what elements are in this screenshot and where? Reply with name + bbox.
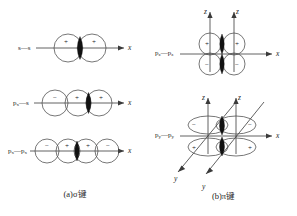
lobe-sign-1: − bbox=[45, 143, 49, 150]
lobe-sign-top-right: − bbox=[248, 122, 252, 129]
x-axis-label: x bbox=[276, 132, 279, 140]
overlap-lens bbox=[75, 141, 80, 161]
row-py-py-label-second-sub: y bbox=[172, 134, 175, 139]
z-axis-left-label: z bbox=[202, 94, 205, 102]
row-s-s-label-second: s bbox=[28, 44, 31, 52]
z-axis-left-label: z bbox=[204, 8, 207, 16]
row-py-py-label-dash: — bbox=[161, 131, 168, 139]
lobe-sign-1: − bbox=[53, 95, 57, 102]
row-pz-pz-label-second-sub: z bbox=[171, 52, 173, 57]
x-axis-arrowhead bbox=[266, 51, 272, 56]
lobe-sign-3: + bbox=[86, 143, 90, 150]
row-px-px-label: px—px bbox=[8, 148, 27, 155]
row-py-py-label: py—py bbox=[155, 132, 174, 139]
row-py-py-drawing bbox=[150, 92, 297, 187]
row-pz-pz-drawing bbox=[150, 6, 297, 86]
figure-canvas: s—s + + x px—s − bbox=[0, 0, 297, 216]
overlap-lens-bottom bbox=[220, 54, 225, 74]
z-axis-right-label: z bbox=[238, 94, 241, 102]
caption-pi-bond: (b)π键 bbox=[150, 192, 297, 201]
lobe-sign-bottom-left: + bbox=[192, 145, 196, 152]
z-axis-left-arrowhead bbox=[207, 12, 212, 18]
lobe-sign-2: + bbox=[92, 39, 96, 46]
row-px-s-label: px—s bbox=[13, 100, 29, 107]
lobe-sign-bottom-right: − bbox=[235, 62, 239, 69]
x-axis-label: x bbox=[276, 50, 279, 58]
lobe-sign-bottom-right: + bbox=[248, 145, 252, 152]
row-px-px-label-dash: — bbox=[14, 147, 21, 155]
row-px-s: px—s − + + x bbox=[0, 83, 150, 123]
lobe-sign-3: + bbox=[99, 95, 103, 102]
row-s-s-label: s—s bbox=[18, 45, 30, 52]
lobe-sign-2: + bbox=[65, 143, 69, 150]
x-axis-arrowhead bbox=[266, 133, 272, 138]
panel-sigma-bond: s—s + + x px—s − bbox=[0, 0, 150, 216]
row-px-px: px—px − + + − x bbox=[0, 131, 150, 171]
row-pz-pz: pz—pz z z x bbox=[150, 6, 297, 86]
lobe-sign-top-left: − bbox=[192, 122, 196, 129]
row-py-py: py—py bbox=[150, 92, 297, 187]
lobe-sign-bottom-left: − bbox=[205, 62, 209, 69]
row-pz-pz-label: pz—pz bbox=[155, 50, 173, 57]
y-axis-right-arrowhead bbox=[206, 168, 213, 175]
row-pz-pz-label-dash: — bbox=[161, 49, 168, 57]
overlap-lens bbox=[77, 37, 83, 60]
x-axis-label: x bbox=[128, 147, 131, 155]
caption-sigma-bond: (a)σ键 bbox=[0, 190, 150, 199]
row-s-s: s—s + + x bbox=[0, 28, 150, 68]
lobe-sign-top-right: + bbox=[235, 41, 239, 48]
row-px-px-label-second-sub: x bbox=[25, 150, 28, 155]
row-s-s-label-dash: — bbox=[21, 44, 28, 52]
y-axis-right-label: y bbox=[202, 183, 205, 191]
panel-pi-bond: pz—pz z z x bbox=[150, 0, 297, 216]
lobe-sign-4: − bbox=[106, 143, 110, 150]
z-axis-right-label: z bbox=[236, 8, 239, 16]
lobe-sign-top-left: + bbox=[205, 41, 209, 48]
row-px-s-label-dash: — bbox=[19, 99, 26, 107]
x-axis-arrowhead bbox=[118, 100, 124, 105]
x-axis-label: x bbox=[128, 44, 131, 52]
z-axis-left-arrowhead bbox=[205, 98, 210, 104]
overlap-lens bbox=[86, 93, 91, 114]
overlap-lens-top bbox=[220, 34, 225, 54]
x-axis-label: x bbox=[128, 99, 131, 107]
row-px-s-label-second: s bbox=[26, 99, 29, 107]
y-axis-left-arrowhead bbox=[178, 166, 185, 173]
y-axis-left-label: y bbox=[174, 175, 177, 183]
y-axis-left-line bbox=[178, 102, 236, 172]
lobe-sign-2: + bbox=[75, 95, 79, 102]
x-axis-arrowhead bbox=[118, 45, 124, 50]
lobe-sign-1: + bbox=[64, 39, 68, 46]
